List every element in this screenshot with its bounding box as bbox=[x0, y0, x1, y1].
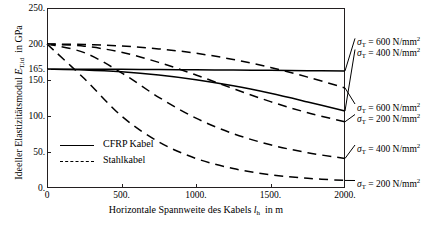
x-axis-title-symbol-sub: h bbox=[257, 209, 261, 217]
sigma-value-text: = 200 N/mm bbox=[366, 114, 417, 124]
annotation-sigma-400-low: σT = 400 N/mm2 bbox=[357, 140, 420, 157]
annotation-leaders bbox=[345, 38, 355, 180]
y-tick-label-250: 250. bbox=[28, 4, 45, 14]
x-tick-label-500: 500. bbox=[113, 190, 130, 200]
sigma-unit-exponent: 2 bbox=[417, 142, 420, 149]
y-tick-label-150: 150. bbox=[28, 76, 45, 86]
sigma-unit-exponent: 2 bbox=[417, 46, 420, 53]
annotation-sigma-400-top: σT = 400 N/mm2 bbox=[357, 44, 420, 61]
legend-label-stahl: Stahlkabel bbox=[103, 154, 145, 165]
x-axis-title: Horizontale Spannweite des Kabels lh in … bbox=[47, 204, 345, 217]
sigma-value-text: = 400 N/mm bbox=[366, 48, 417, 58]
sigma-unit-exponent: 2 bbox=[417, 35, 420, 42]
legend-swatch-dashed bbox=[60, 161, 94, 164]
figure-root: 250. 200. 165. 150. 100. 50. 0. Ideeller… bbox=[0, 0, 446, 242]
legend-label-cfrp: CFRP Kabel bbox=[103, 138, 153, 149]
x-axis-title-main: Horizontale Spannweite des Kabels bbox=[109, 204, 251, 215]
x-tick-label-0: 0 bbox=[45, 190, 50, 200]
annotation-sigma-200-mid: σT = 200 N/mm2 bbox=[357, 110, 420, 127]
y-axis-title-symbol: E bbox=[13, 69, 24, 75]
y-tick-label-50: 50. bbox=[33, 148, 45, 158]
annotation-sigma-200-low: σT = 200 N/mm2 bbox=[357, 175, 420, 192]
y-axis-title-symbol-sub: T,id bbox=[18, 58, 26, 69]
sigma-value-text: = 200 N/mm bbox=[366, 179, 417, 189]
legend-swatch-solid bbox=[60, 145, 94, 148]
x-tick-label-1000: 1000. bbox=[185, 190, 206, 200]
x-axis-title-unit: in m bbox=[265, 204, 283, 215]
y-tick-label-165: 165. bbox=[28, 65, 45, 75]
x-tick-label-1500: 1500. bbox=[260, 190, 281, 200]
x-tick-label-2000: 2000. bbox=[334, 190, 355, 200]
y-tick-label-100: 100. bbox=[28, 112, 45, 122]
y-axis-title-unit: in GPa bbox=[13, 25, 24, 53]
y-tick-label-200: 200. bbox=[28, 40, 45, 50]
sigma-value-text: = 400 N/mm bbox=[366, 144, 417, 154]
y-axis-title-main: Ideeller Elastizitätsmodul bbox=[13, 77, 24, 179]
sigma-unit-exponent: 2 bbox=[417, 101, 420, 108]
sigma-unit-exponent: 2 bbox=[417, 177, 420, 184]
sigma-unit-exponent: 2 bbox=[417, 112, 420, 119]
y-axis-title: Ideeller Elastizitätsmodul ET,id in GPa bbox=[13, 13, 26, 193]
